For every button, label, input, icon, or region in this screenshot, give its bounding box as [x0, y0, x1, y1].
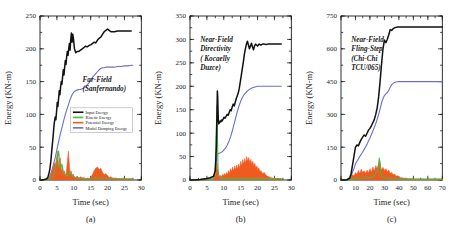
- annotation-line: Directivity: [199, 45, 232, 53]
- y-tick-label: 600: [326, 45, 337, 53]
- y-tick-label: 300: [326, 111, 337, 119]
- series-group: [40, 29, 133, 180]
- x-tick-label: 20: [366, 184, 373, 192]
- y-tick-label: 0: [333, 176, 337, 184]
- x-tick-label: 70: [438, 184, 445, 192]
- y-axis-label: Energy (KN-m): [3, 71, 13, 125]
- x-tick-label: 30: [381, 184, 388, 192]
- annotation-line: TCU/065): [351, 64, 381, 72]
- y-tick-label: 750: [326, 12, 337, 20]
- x-tick-label: 20: [104, 184, 111, 192]
- x-tick-label: 25: [271, 184, 278, 192]
- x-tick-label: 10: [352, 184, 359, 192]
- y-axis-label: Energy (KN-m): [153, 71, 163, 125]
- panel-annotation: Near-FieldDirectivity( KocaellyDuzce): [199, 36, 233, 72]
- series-input-energy: [40, 29, 131, 180]
- x-tick-label: 0: [38, 184, 42, 192]
- x-axis-label: Time (sec): [73, 197, 109, 207]
- y-tick-label: 150: [176, 106, 187, 114]
- x-tick-label: 15: [87, 184, 94, 192]
- y-tick-label: 200: [176, 83, 187, 91]
- y-tick-label: 0: [32, 176, 36, 184]
- panel-annotation: Near-FieldFling-Step(Chi-ChiTCU/065): [350, 36, 384, 72]
- chart-panel-a: 051015202530050100150200250Time (sec)Ene…: [0, 0, 150, 238]
- y-tick-label: 250: [26, 12, 37, 20]
- x-tick-label: 15: [237, 184, 244, 192]
- series-potential-energy: [190, 157, 281, 180]
- panel-caption: (b): [236, 214, 246, 224]
- x-tick-label: 5: [205, 184, 209, 192]
- panel-caption: (a): [86, 214, 96, 224]
- y-tick-label: 450: [326, 78, 337, 86]
- chart-legend: Input EnergyKinetic EnergyPotential Ener…: [70, 108, 132, 133]
- y-tick-label: 0: [183, 176, 187, 184]
- y-tick-label: 100: [176, 130, 187, 138]
- y-tick-label: 300: [176, 36, 187, 44]
- annotation-line: ( Kocaelly: [200, 55, 231, 63]
- series-modal-damping-energy: [341, 82, 442, 180]
- y-tick-label: 50: [179, 153, 186, 161]
- x-tick-label: 5: [55, 184, 59, 192]
- x-tick-label: 10: [70, 184, 77, 192]
- y-tick-label: 150: [26, 78, 37, 86]
- x-tick-label: 0: [339, 184, 343, 192]
- y-tick-label: 50: [29, 144, 36, 152]
- annotation-line: (Chi-Chi: [351, 55, 377, 63]
- y-tick-label: 100: [26, 111, 37, 119]
- x-tick-label: 20: [254, 184, 261, 192]
- chart-panel-c: 0102030405060700150300450600750Time (sec…: [301, 0, 451, 238]
- x-tick-label: 60: [424, 184, 431, 192]
- y-tick-label: 150: [326, 144, 337, 152]
- y-tick-label: 350: [176, 12, 187, 20]
- annotation-line: Near-Field: [350, 36, 384, 44]
- x-tick-label: 40: [395, 184, 402, 192]
- annotation-line: Fling-Step: [351, 45, 383, 53]
- energy-time-history-figure: 051015202530050100150200250Time (sec)Ene…: [0, 0, 451, 238]
- x-tick-label: 25: [121, 184, 128, 192]
- annotation-line: Far-Field: [83, 76, 113, 84]
- legend-label: Modal Damping Energy: [85, 126, 127, 131]
- panel-annotation: Far-Field(Sanfernando): [83, 76, 127, 93]
- annotation-line: (Sanfernando): [83, 85, 127, 93]
- panel-caption: (c): [387, 214, 397, 224]
- y-tick-label: 200: [26, 45, 37, 53]
- chart-panel-b: 051015202530050100150200250300350Time (s…: [150, 0, 300, 238]
- x-tick-label: 10: [221, 184, 228, 192]
- x-tick-label: 50: [410, 184, 417, 192]
- annotation-line: Duzce): [199, 64, 221, 72]
- x-axis-label: Time (sec): [223, 197, 259, 207]
- x-tick-label: 30: [288, 184, 295, 192]
- y-axis-label: Energy (KN-m): [304, 71, 314, 125]
- x-tick-label: 0: [189, 184, 193, 192]
- x-tick-label: 30: [138, 184, 145, 192]
- x-axis-label: Time (sec): [373, 197, 409, 207]
- y-tick-label: 250: [176, 59, 187, 67]
- annotation-line: Near-Field: [199, 36, 233, 44]
